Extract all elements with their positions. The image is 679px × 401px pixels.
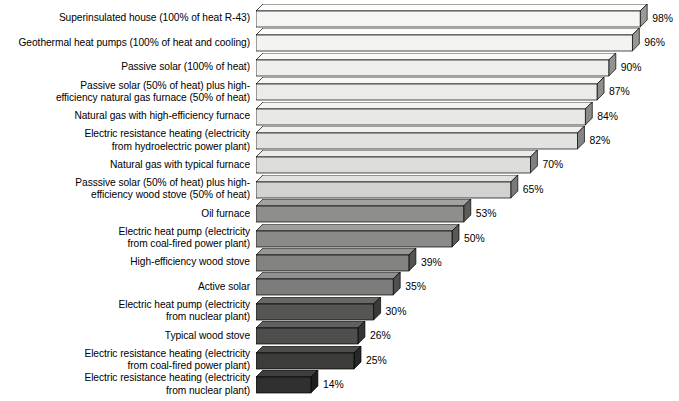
bar-shape	[256, 248, 418, 273]
bar-value-label: 25%	[366, 355, 387, 366]
bar-category-label: Electric resistance heating (electricity…	[0, 128, 250, 152]
bar-shape	[256, 224, 461, 249]
bar-category-label: Electric heat pump (electricity from nuc…	[0, 299, 250, 323]
bar-shape	[256, 272, 402, 297]
bar-value-label: 82%	[589, 135, 610, 146]
bar-shape	[256, 102, 594, 127]
bar-shape	[256, 175, 520, 200]
bar-category-label: Active solar	[0, 281, 250, 293]
bar-value-label: 87%	[609, 86, 630, 97]
bar-value-label: 39%	[421, 257, 442, 268]
bar-shape	[256, 370, 320, 395]
bar-category-label: Natural gas with typical furnace	[0, 159, 250, 171]
bar-shape	[256, 53, 618, 78]
bar-value-label: 50%	[464, 233, 485, 244]
bar-value-label: 30%	[386, 306, 407, 317]
bar-category-label: Passive solar (100% of heat)	[0, 61, 250, 73]
bar-value-label: 35%	[405, 281, 426, 292]
bar-shape	[256, 77, 606, 102]
bar-category-label: Electric resistance heating (electricity…	[0, 348, 250, 372]
bar-chart: Superinsulated house (100% of heat R-43)…	[0, 0, 679, 401]
bar-category-label: Electric resistance heating (electricity…	[0, 372, 250, 396]
plot-area: Superinsulated house (100% of heat R-43)…	[0, 0, 679, 401]
bar-category-label: Typical wood stove	[0, 330, 250, 342]
bar-value-label: 98%	[652, 13, 673, 24]
bar-shape	[256, 150, 539, 175]
bar-shape	[256, 346, 363, 371]
bar-value-label: 70%	[542, 159, 563, 170]
bar-shape	[256, 297, 383, 322]
bar-category-label: Geothermal heat pumps (100% of heat and …	[0, 37, 250, 49]
bar-shape	[256, 126, 586, 151]
bar-value-label: 84%	[597, 111, 618, 122]
bar-category-label: Superinsulated house (100% of heat R-43)	[0, 12, 250, 24]
bar-value-label: 26%	[370, 330, 391, 341]
bar-shape	[256, 321, 367, 346]
bar-category-label: Electric heat pump (electricity from coa…	[0, 226, 250, 250]
bar-value-label: 14%	[323, 379, 344, 390]
bar-value-label: 53%	[476, 208, 497, 219]
bar-category-label: Oil furnace	[0, 208, 250, 220]
bar-shape	[256, 4, 649, 29]
bar-value-label: 90%	[621, 62, 642, 73]
bar-category-label: Passsive solar (50% of heat) plus high- …	[0, 177, 250, 201]
bar-category-label: High-efficiency wood stove	[0, 256, 250, 268]
bar-shape	[256, 28, 641, 53]
bar-category-label: Natural gas with high-efficiency furnace	[0, 110, 250, 122]
bar-category-label: Passive solar (50% of heat) plus high- e…	[0, 80, 250, 104]
bar-value-label: 65%	[523, 184, 544, 195]
bar-shape	[256, 199, 473, 224]
bar-value-label: 96%	[644, 37, 665, 48]
